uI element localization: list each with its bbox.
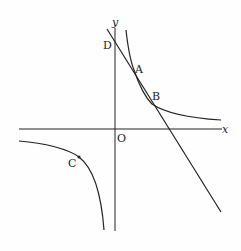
hyperbola-branch-lower bbox=[19, 141, 104, 230]
point-c-dot bbox=[78, 156, 81, 159]
origin-label: O bbox=[117, 132, 126, 145]
diagram-canvas: y x O D A B C bbox=[0, 0, 241, 251]
x-axis-label: x bbox=[222, 123, 229, 136]
coordinate-diagram: y x O D A B C bbox=[0, 0, 241, 251]
point-d-label: D bbox=[103, 39, 112, 52]
point-c-label: C bbox=[68, 157, 76, 170]
y-axis-label: y bbox=[111, 16, 119, 29]
tangent-line bbox=[107, 29, 221, 212]
point-b-label: B bbox=[152, 90, 160, 103]
point-a-label: A bbox=[134, 63, 144, 76]
